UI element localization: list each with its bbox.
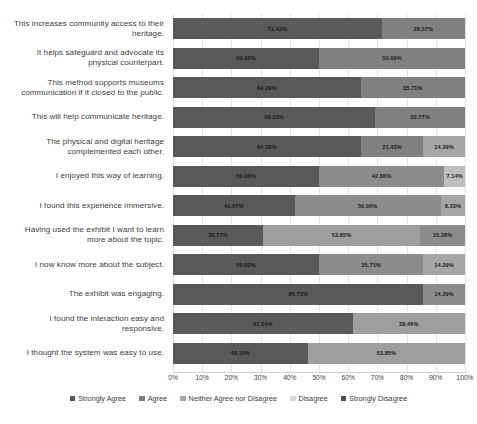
legend-label: Strongly Disagree: [349, 394, 407, 403]
chart-row: This method supports museums communicati…: [0, 73, 477, 103]
chart-row: I enjoyed this way of learning.50.00%42.…: [0, 162, 477, 192]
segment-value-label: 71.43%: [267, 26, 287, 32]
x-axis-tick-label: 40%: [283, 374, 296, 381]
bar-segment[interactable]: 38.46%: [353, 313, 465, 334]
bar-segment[interactable]: 41.67%: [173, 195, 295, 216]
legend-item[interactable]: Agree: [139, 394, 167, 403]
segment-value-label: 53.85%: [377, 350, 397, 356]
bar-segment[interactable]: 50.00%: [319, 48, 465, 69]
bar-segment[interactable]: 53.85%: [308, 343, 465, 364]
bar-segment[interactable]: 61.54%: [173, 313, 353, 334]
chart-row: I now know more about the subject.50.00%…: [0, 250, 477, 280]
bar-segment[interactable]: 28.57%: [382, 18, 465, 39]
category-label: I found the interaction easy and respons…: [6, 314, 164, 334]
bar-segment[interactable]: 50.00%: [295, 195, 441, 216]
category-label: It helps safeguard and advocate its phys…: [6, 48, 164, 68]
legend-swatch-icon: [180, 396, 186, 402]
stacked-bar[interactable]: 50.00%35.71%14.29%: [173, 254, 465, 275]
bar-segment[interactable]: 71.43%: [173, 18, 382, 39]
segment-value-label: 41.67%: [224, 203, 244, 209]
bar-segment[interactable]: 14.29%: [423, 254, 465, 275]
category-label: Having used the exhibit I want to learn …: [6, 225, 164, 245]
bar-segment[interactable]: 14.29%: [423, 136, 465, 157]
bar-segment[interactable]: 50.00%: [173, 254, 319, 275]
legend-swatch-icon: [139, 396, 145, 402]
bar-rows: This increases community access to their…: [0, 14, 477, 368]
bar-segment[interactable]: 35.71%: [319, 254, 423, 275]
segment-value-label: 85.71%: [288, 291, 308, 297]
segment-value-label: 21.43%: [382, 144, 402, 150]
bar-track: 71.43%28.57%: [173, 18, 465, 39]
x-axis-tick-label: 30%: [254, 374, 267, 381]
bar-segment[interactable]: 64.29%: [173, 77, 361, 98]
category-label: The exhibit was engaging.: [6, 289, 164, 299]
x-axis-tick-label: 70%: [371, 374, 384, 381]
bar-track: 61.54%38.46%: [173, 313, 465, 334]
bar-track: 85.71%14.29%: [173, 284, 465, 305]
legend-label: Disagree: [299, 394, 328, 403]
bar-segment[interactable]: 46.15%: [173, 343, 308, 364]
segment-value-label: 14.29%: [434, 144, 454, 150]
bar-segment[interactable]: 53.85%: [263, 225, 420, 246]
segment-value-label: 46.15%: [231, 350, 251, 356]
chart-row: The exhibit was engaging.85.71%14.29%: [0, 280, 477, 310]
segment-value-label: 8.33%: [445, 203, 461, 209]
bar-segment[interactable]: 21.43%: [361, 136, 424, 157]
bar-track: 46.15%53.85%: [173, 343, 465, 364]
legend-item[interactable]: Disagree: [290, 394, 328, 403]
chart-row: Having used the exhibit I want to learn …: [0, 221, 477, 251]
bar-segment[interactable]: 8.33%: [441, 195, 465, 216]
x-axis-tick-label: 20%: [225, 374, 238, 381]
x-axis-tick-label: 80%: [400, 374, 413, 381]
stacked-bar[interactable]: 41.67%50.00%8.33%: [173, 195, 465, 216]
category-label: The physical and digital heritage comple…: [6, 137, 164, 157]
bar-segment[interactable]: 30.77%: [173, 225, 263, 246]
stacked-bar[interactable]: 69.23%30.77%: [173, 107, 465, 128]
bar-segment[interactable]: 85.71%: [173, 284, 423, 305]
bar-segment[interactable]: 69.23%: [173, 107, 375, 128]
x-axis-tick-label: 90%: [429, 374, 442, 381]
segment-value-label: 64.29%: [257, 85, 277, 91]
chart-row: This increases community access to their…: [0, 14, 477, 44]
stacked-bar[interactable]: 71.43%28.57%: [173, 18, 465, 39]
bar-segment[interactable]: 30.77%: [375, 107, 465, 128]
segment-value-label: 50.00%: [236, 55, 256, 61]
segment-value-label: 14.29%: [434, 262, 454, 268]
plot-area: This increases community access to their…: [0, 14, 477, 372]
category-label: This increases community access to their…: [6, 19, 164, 39]
bar-segment[interactable]: 50.00%: [173, 48, 319, 69]
segment-value-label: 7.14%: [446, 173, 462, 179]
segment-value-label: 53.85%: [332, 232, 352, 238]
chart-legend: Strongly AgreeAgreeNeither Agree nor Dis…: [0, 394, 477, 403]
stacked-bar[interactable]: 64.29%21.43%14.29%: [173, 136, 465, 157]
x-axis-tick-label: 60%: [342, 374, 355, 381]
bar-segment[interactable]: 15.38%: [420, 225, 465, 246]
category-label: I now know more about the subject.: [6, 260, 164, 270]
stacked-bar[interactable]: 64.29%35.71%: [173, 77, 465, 98]
bar-track: 69.23%30.77%: [173, 107, 465, 128]
x-axis-line: [173, 372, 466, 373]
legend-item[interactable]: Neither Agree nor Disagree: [180, 394, 277, 403]
stacked-bar[interactable]: 30.77%53.85%15.38%: [173, 225, 465, 246]
bar-segment[interactable]: 64.29%: [173, 136, 361, 157]
bar-segment[interactable]: 42.86%: [319, 166, 444, 187]
stacked-bar[interactable]: 50.00%50.00%: [173, 48, 465, 69]
x-axis-tick-label: 10%: [196, 374, 209, 381]
segment-value-label: 50.00%: [382, 55, 402, 61]
bar-segment[interactable]: 14.29%: [423, 284, 465, 305]
bar-track: 30.77%53.85%15.38%: [173, 225, 465, 246]
bar-segment[interactable]: 35.71%: [361, 77, 465, 98]
stacked-bar[interactable]: 61.54%38.46%: [173, 313, 465, 334]
legend-item[interactable]: Strongly Agree: [70, 394, 126, 403]
legend-label: Agree: [148, 394, 167, 403]
legend-item[interactable]: Strongly Disagree: [341, 394, 408, 403]
segment-value-label: 42.86%: [372, 173, 392, 179]
x-axis-tick-label: 50%: [312, 374, 325, 381]
stacked-bar[interactable]: 46.15%53.85%: [173, 343, 465, 364]
bar-segment[interactable]: 50.00%: [173, 166, 319, 187]
legend-label: Neither Agree nor Disagree: [189, 394, 277, 403]
bar-segment[interactable]: 7.14%: [444, 166, 465, 187]
stacked-bar[interactable]: 50.00%42.86%7.14%: [173, 166, 465, 187]
stacked-bar[interactable]: 85.71%14.29%: [173, 284, 465, 305]
segment-value-label: 28.57%: [413, 26, 433, 32]
